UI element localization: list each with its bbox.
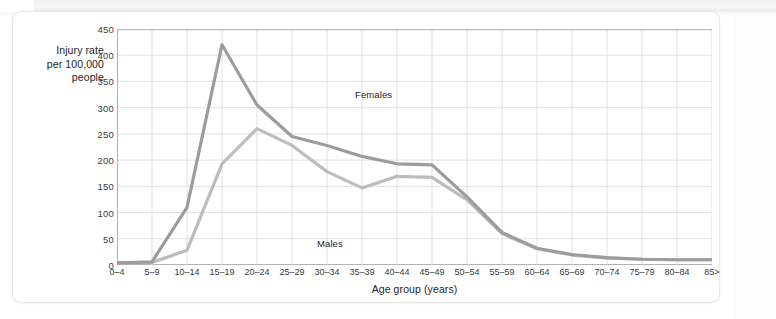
x-axis-title: Age group (years) bbox=[117, 283, 712, 295]
x-axis-tick: 5–9 bbox=[144, 267, 159, 277]
plot-area: Females Males bbox=[117, 29, 712, 265]
series-label-females: Females bbox=[355, 89, 392, 100]
x-axis-tick: 35–39 bbox=[349, 267, 374, 277]
y-axis-tick: 350 bbox=[98, 76, 114, 87]
x-axis-tick: 40–44 bbox=[384, 267, 409, 277]
x-axis-tick: 10–14 bbox=[174, 267, 199, 277]
x-axis-tick: 55–59 bbox=[489, 267, 514, 277]
y-axis-title: Injury rate per 100,000 people bbox=[8, 44, 104, 85]
x-axis-tick: 30–34 bbox=[314, 267, 339, 277]
y-axis-title-line-2: per 100,000 bbox=[8, 58, 104, 72]
series-label-males: Males bbox=[317, 238, 343, 249]
x-axis-tick: 70–74 bbox=[594, 267, 619, 277]
y-axis-tick: 450 bbox=[98, 24, 114, 35]
x-axis-tick-labels: 0–45–910–1415–1920–2425–2930–3435–3940–4… bbox=[117, 267, 712, 281]
x-axis-tick: 60–64 bbox=[524, 267, 549, 277]
x-axis-tick: 20–24 bbox=[244, 267, 269, 277]
x-axis-tick: 85> bbox=[704, 267, 719, 277]
y-axis-tick: 300 bbox=[98, 102, 114, 113]
y-axis-tick: 250 bbox=[98, 128, 114, 139]
x-axis-tick: 0–4 bbox=[109, 267, 124, 277]
x-axis-tick: 65–69 bbox=[559, 267, 584, 277]
x-axis-tick: 45–49 bbox=[419, 267, 444, 277]
y-axis-tick-labels: 050100150200250300350400450 bbox=[92, 29, 114, 265]
y-axis-tick: 150 bbox=[98, 181, 114, 192]
y-axis-tick: 100 bbox=[98, 207, 114, 218]
y-axis-title-line-3: people bbox=[8, 71, 104, 85]
x-axis-tick: 50–54 bbox=[454, 267, 479, 277]
y-axis-tick: 50 bbox=[103, 233, 114, 244]
x-axis-tick: 80–84 bbox=[664, 267, 689, 277]
x-axis-tick: 75–79 bbox=[629, 267, 654, 277]
y-axis-tick: 400 bbox=[98, 50, 114, 61]
x-axis-tick: 15–19 bbox=[209, 267, 234, 277]
y-axis-tick: 200 bbox=[98, 155, 114, 166]
chart-series-lines bbox=[117, 29, 712, 265]
y-axis-title-line-1: Injury rate bbox=[8, 44, 104, 58]
x-axis-tick: 25–29 bbox=[279, 267, 304, 277]
